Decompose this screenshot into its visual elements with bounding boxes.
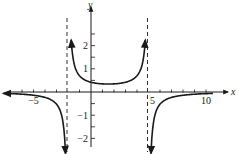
x-tick-label: −5 xyxy=(28,95,39,106)
y-tick-label: 2 xyxy=(83,40,88,51)
y-tick-label: 1 xyxy=(83,63,88,74)
y-tick-label: −2 xyxy=(77,133,88,144)
y-axis-label: y xyxy=(87,0,93,10)
rational-function-graph: −5510−2−112xy xyxy=(0,0,238,154)
x-tick-label: 10 xyxy=(201,95,211,106)
x-tick-label: 5 xyxy=(150,95,155,106)
x-axis-label: x xyxy=(230,86,236,97)
y-tick-label: −1 xyxy=(77,110,88,121)
